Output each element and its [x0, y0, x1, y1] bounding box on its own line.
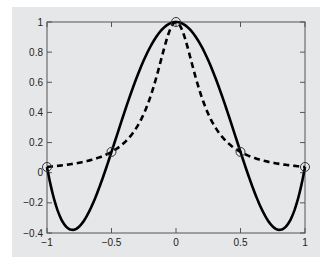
x-tick-label: 1: [302, 237, 308, 248]
y-tick-label: 0.8: [29, 47, 43, 58]
y-tick-label: 1: [37, 17, 43, 28]
x-tick-label: −1: [41, 237, 53, 248]
y-tick-label: 0.4: [29, 107, 43, 118]
y-tick-label: −0.4: [23, 228, 43, 239]
plot-area: −1−0.500.51−0.4−0.200.20.40.60.81: [0, 0, 333, 266]
y-tick-label: 0.6: [29, 77, 43, 88]
axes-frame: [47, 22, 305, 233]
y-tick-label: 0.2: [29, 137, 43, 148]
x-tick-label: 0.5: [234, 237, 248, 248]
x-tick-label: −0.5: [102, 237, 122, 248]
y-tick-label: −0.2: [23, 197, 43, 208]
x-tick-label: 0: [173, 237, 179, 248]
